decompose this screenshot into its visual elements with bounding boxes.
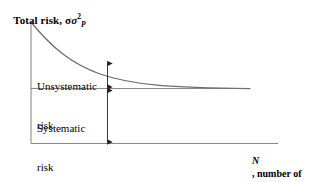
systematic-risk-label: Systematic risk	[37, 96, 85, 182]
y-axis-title: Total risk, σσ2P	[2, 1, 86, 40]
x-axis-title-line1: N, number of	[252, 155, 302, 179]
unsystematic-risk-label-line1: Unsystematic	[37, 80, 97, 93]
x-axis-title: N, number of securities in portfolio	[252, 131, 302, 182]
x-axis-title-line1-rest: , number of	[252, 168, 302, 180]
systematic-risk-label-line1: Systematic	[37, 122, 85, 135]
risk-diversification-chart: Total risk, σσ2P Unsystematic risk Syste…	[0, 0, 312, 182]
sigma-subscript: P	[81, 20, 86, 29]
y-axis-title-text: Total risk, σ	[13, 14, 71, 26]
x-axis-variable-symbol: N	[252, 155, 302, 167]
systematic-risk-label-line2: risk	[37, 161, 85, 174]
